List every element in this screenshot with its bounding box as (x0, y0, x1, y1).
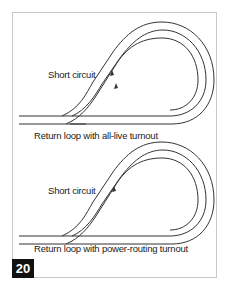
caption-all-live: Return loop with all-live turnout (34, 130, 158, 141)
track-loop-inner-2 (66, 158, 198, 244)
caption-power-routing: Return loop with power-routing turnout (34, 243, 188, 254)
track-loop-inner-2 (66, 38, 198, 124)
figure-number-badge: 20 (12, 259, 34, 278)
arrow-icons-1 (110, 70, 118, 89)
arrow-up-icon (114, 83, 118, 89)
short-circuit-label-2: Short circuit (48, 185, 96, 196)
short-circuit-label-1: Short circuit (48, 69, 96, 80)
